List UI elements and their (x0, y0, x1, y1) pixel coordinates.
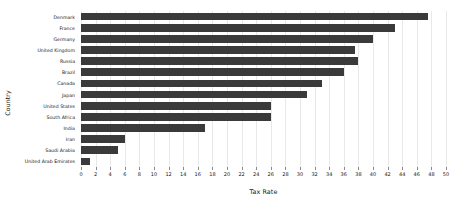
y-tick-label: United Arab Emirates (25, 159, 75, 164)
x-tick-mark (96, 167, 97, 170)
x-axis-title: Tax Rate (81, 188, 446, 196)
x-tick-label: 20 (224, 171, 230, 177)
x-tick-label: 12 (165, 171, 171, 177)
bar (81, 24, 395, 32)
y-tick-label: Iran (66, 137, 75, 142)
x-tick-mark (227, 167, 228, 170)
x-tick-mark (110, 167, 111, 170)
x-tick-mark (285, 167, 286, 170)
y-tick-label: United States (43, 103, 75, 108)
x-axis-tick-labels: 0246810121416182022242628303234363840424… (81, 167, 446, 185)
bar (81, 158, 90, 166)
x-tick-mark (183, 167, 184, 170)
bar (81, 91, 307, 99)
bar (81, 80, 322, 88)
y-tick-label: Germany (53, 36, 75, 41)
x-tick-mark (300, 167, 301, 170)
bar-row (81, 67, 446, 78)
x-tick-label: 40 (370, 171, 376, 177)
x-tick-label: 44 (399, 171, 405, 177)
x-tick-label: 26 (268, 171, 274, 177)
x-tick-label: 16 (195, 171, 201, 177)
y-tick-label: South Africa (47, 114, 75, 119)
bar (81, 135, 125, 143)
x-tick-label: 4 (109, 171, 112, 177)
x-tick-label: 22 (238, 171, 244, 177)
x-tick-label: 10 (151, 171, 157, 177)
x-tick-mark (139, 167, 140, 170)
x-tick-mark (125, 167, 126, 170)
x-tick-mark (242, 167, 243, 170)
x-tick-label: 50 (443, 171, 449, 177)
bar (81, 113, 271, 121)
x-tick-label: 28 (282, 171, 288, 177)
y-tick-label: Canada (57, 81, 75, 86)
x-tick-mark (169, 167, 170, 170)
y-tick-label: Japan (62, 92, 75, 97)
bar (81, 124, 205, 132)
y-tick-label: Brazil (62, 70, 75, 75)
x-tick-label: 42 (384, 171, 390, 177)
x-tick-mark (256, 167, 257, 170)
bar-row (81, 78, 446, 89)
bar-row (81, 100, 446, 111)
x-tick-mark (271, 167, 272, 170)
bar-row (81, 44, 446, 55)
bar-row (81, 122, 446, 133)
bar-row (81, 145, 446, 156)
x-tick-mark (446, 167, 447, 170)
x-tick-mark (402, 167, 403, 170)
gridline (446, 11, 447, 167)
x-tick-mark (212, 167, 213, 170)
bar-row (81, 11, 446, 22)
y-tick-label: France (59, 25, 75, 30)
plot-area (81, 11, 446, 167)
x-tick-label: 38 (355, 171, 361, 177)
bar-chart-figure: Country DenmarkFranceGermanyUnited Kingd… (0, 0, 459, 206)
x-tick-label: 24 (253, 171, 259, 177)
x-tick-label: 2 (94, 171, 97, 177)
x-tick-label: 0 (79, 171, 82, 177)
x-tick-mark (358, 167, 359, 170)
x-tick-mark (344, 167, 345, 170)
y-tick-label: Saudi Arabia (45, 148, 75, 153)
x-tick-mark (373, 167, 374, 170)
x-tick-label: 14 (180, 171, 186, 177)
bar (81, 102, 271, 110)
x-tick-mark (329, 167, 330, 170)
bar (81, 57, 358, 65)
bar-row (81, 156, 446, 167)
bar (81, 68, 344, 76)
x-tick-label: 46 (414, 171, 420, 177)
x-tick-mark (198, 167, 199, 170)
x-tick-label: 8 (138, 171, 141, 177)
x-tick-label: 6 (123, 171, 126, 177)
bar-row (81, 33, 446, 44)
bar (81, 146, 118, 154)
bar-row (81, 134, 446, 145)
y-tick-label: United Kingdom (37, 48, 75, 53)
bar (81, 13, 428, 21)
y-axis-tick-labels: DenmarkFranceGermanyUnited KingdomRussia… (0, 11, 78, 167)
x-tick-label: 32 (311, 171, 317, 177)
bar-row (81, 89, 446, 100)
y-tick-label: Russia (60, 59, 75, 64)
bar-row (81, 111, 446, 122)
x-tick-label: 34 (326, 171, 332, 177)
bar (81, 46, 355, 54)
x-tick-mark (315, 167, 316, 170)
x-tick-label: 48 (428, 171, 434, 177)
x-tick-label: 18 (209, 171, 215, 177)
y-tick-label: India (63, 126, 75, 131)
x-tick-mark (81, 167, 82, 170)
bar-row (81, 22, 446, 33)
x-tick-mark (388, 167, 389, 170)
x-tick-mark (431, 167, 432, 170)
x-tick-mark (154, 167, 155, 170)
x-tick-label: 30 (297, 171, 303, 177)
bar-row (81, 56, 446, 67)
y-tick-label: Denmark (53, 14, 75, 19)
bar (81, 35, 373, 43)
x-tick-label: 36 (341, 171, 347, 177)
x-tick-mark (417, 167, 418, 170)
